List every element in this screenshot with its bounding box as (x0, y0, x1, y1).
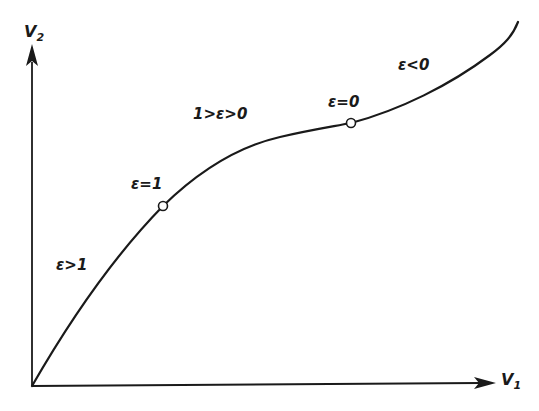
v1-v2-curve-diagram (0, 0, 539, 411)
region-label-eps-between-1-and-0: 1>ε>0 (193, 107, 247, 122)
point-marker-eps-eq-0 (347, 119, 356, 128)
characteristic-curve (32, 22, 518, 386)
region-label-eps-gt-1: ε>1 (56, 258, 87, 273)
x-axis-label: V1 (501, 372, 521, 391)
region-label-eps-lt-0: ε<0 (398, 58, 429, 73)
point-label-eps-eq-1: ε=1 (131, 177, 162, 192)
point-marker-eps-eq-1 (159, 202, 168, 211)
x-axis-subscript: 1 (513, 379, 521, 392)
x-axis-line (32, 383, 480, 386)
y-axis-subscript: 2 (36, 31, 44, 44)
point-label-eps-eq-0: ε=0 (328, 95, 359, 110)
x-axis-symbol: V (501, 370, 513, 389)
y-axis-symbol: V (24, 22, 36, 41)
y-axis-label: V2 (24, 24, 44, 43)
